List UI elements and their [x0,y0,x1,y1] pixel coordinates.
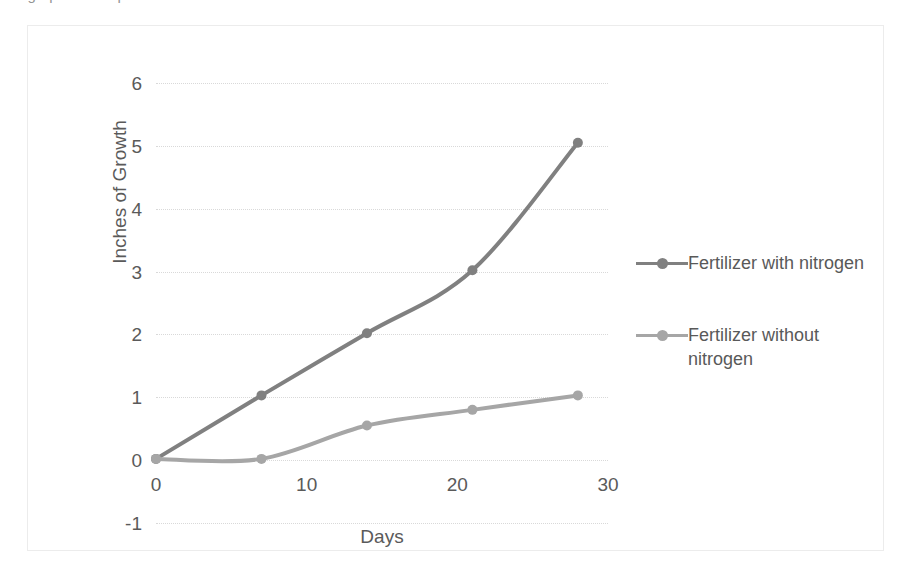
data-point-marker [467,405,477,415]
legend-label: Fertilizer without nitrogen [688,323,873,372]
series-line [156,143,578,459]
data-point-marker [256,454,266,464]
chart-frame: Inches of Growth -10123456 0102030 Days … [27,25,884,551]
clipped-page-title: Bar graph lesson plan [0,0,420,8]
x-axis-title: Days [156,526,608,548]
legend-label: Fertilizer with nitrogen [688,251,864,275]
legend-entry-0[interactable]: Fertilizer with nitrogen [636,251,864,275]
chart-screenshot: Bar graph lesson plan Inches of Growth -… [0,0,908,585]
series-0 [151,138,583,464]
legend-dot [657,330,668,341]
y-tick-label: 4 [131,199,142,218]
y-tick-label: 1 [131,388,142,407]
legend-marker-icon [636,325,688,345]
gridline [156,523,608,524]
legend-entry-1[interactable]: Fertilizer without nitrogen [636,323,873,372]
y-tick-label: 2 [131,325,142,344]
series-plot-svg [156,83,608,523]
data-point-marker [573,390,583,400]
y-tick-label: 3 [131,262,142,281]
data-point-marker [573,138,583,148]
y-axis-title: Inches of Growth [109,82,131,302]
y-tick-label: -1 [125,514,142,533]
series-1 [151,390,583,463]
data-point-marker [467,265,477,275]
y-tick-label: 0 [131,451,142,470]
data-point-marker [362,328,372,338]
data-point-marker [362,421,372,431]
data-point-marker [256,390,266,400]
plot-area: -10123456 0102030 [156,83,608,523]
legend-dot [657,258,668,269]
legend-marker-icon [636,253,688,273]
y-tick-label: 6 [131,74,142,93]
y-tick-label: 5 [131,136,142,155]
data-point-marker [151,454,161,464]
